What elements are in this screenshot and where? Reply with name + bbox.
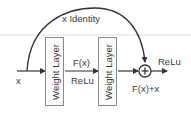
relu-out-label: ReLu [158,57,181,67]
input-label: x [16,76,21,86]
weight-layer-1: Weight Layer [45,37,64,106]
weight-layer-2-label: Weight Layer [102,44,113,100]
relu-mid-label: ReLu [71,76,94,86]
sum-label: F(x)+x [132,84,159,94]
weight-layer-1-label: Weight Layer [49,44,60,100]
identity-label: x Identity [62,14,100,24]
fx-label: F(x) [73,58,90,68]
weight-layer-2: Weight Layer [98,37,117,106]
sum-node-icon [139,65,151,77]
